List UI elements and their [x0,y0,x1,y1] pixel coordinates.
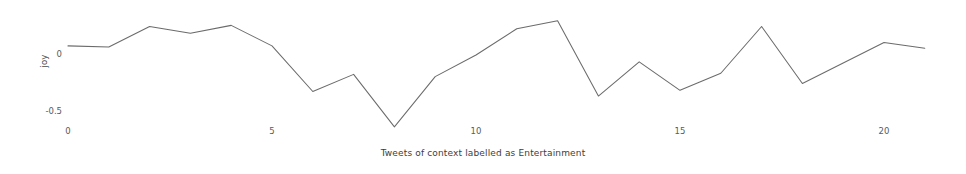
line-chart: joy 0 -0.5 0 5 10 15 20 Tweets of contex… [0,0,966,174]
plot-area [0,0,966,174]
joy-series-line [68,21,925,127]
